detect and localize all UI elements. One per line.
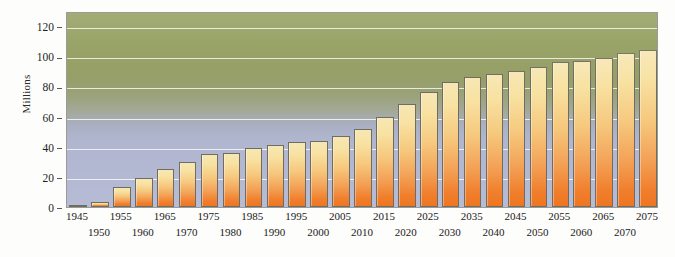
bar (464, 77, 482, 207)
y-tick-mark (57, 148, 62, 149)
bar (310, 141, 328, 207)
bar (442, 82, 460, 207)
x-tick-label: 2015 (373, 210, 395, 222)
x-tick-label: 1945 (66, 210, 88, 222)
y-tick-label: 80 (43, 81, 63, 93)
bar (420, 92, 438, 207)
bar (639, 50, 657, 207)
x-tick-label: 2055 (548, 210, 570, 222)
bar (135, 178, 153, 207)
x-tick-label: 1960 (132, 226, 154, 238)
bar (595, 58, 613, 207)
x-tick-label: 1985 (241, 210, 263, 222)
x-tick-label: 1955 (110, 210, 132, 222)
x-tick-label: 2030 (439, 226, 461, 238)
bar (288, 142, 306, 207)
bar (332, 136, 350, 207)
bar (617, 53, 635, 207)
y-tick-label: 120 (37, 21, 62, 33)
x-tick-label: 2010 (351, 226, 373, 238)
x-tick-label: 2065 (592, 210, 614, 222)
x-tick-label: 2035 (461, 210, 483, 222)
bar (157, 169, 175, 207)
x-tick-label: 1950 (88, 226, 110, 238)
y-tick-label: 20 (43, 172, 63, 184)
x-tick-label: 2040 (483, 226, 505, 238)
bar (113, 187, 131, 207)
x-tick-label: 1965 (154, 210, 176, 222)
x-tick-label: 1975 (198, 210, 220, 222)
bar (223, 153, 241, 207)
x-tick-label: 1995 (285, 210, 307, 222)
bar (376, 117, 394, 207)
x-tick-label: 1970 (176, 226, 198, 238)
x-tick-label: 1980 (219, 226, 241, 238)
y-tick-mark (57, 178, 62, 179)
y-tick-label: 40 (43, 142, 63, 154)
bar (573, 61, 591, 207)
bar (69, 205, 87, 208)
x-tick-label: 2025 (417, 210, 439, 222)
bar (267, 145, 285, 207)
population-bar-chart: Millions 020406080100120 194519501955196… (0, 0, 675, 257)
bar (354, 129, 372, 207)
x-tick-label: 1990 (263, 226, 285, 238)
bar (179, 162, 197, 207)
bar (398, 104, 416, 207)
y-tick-mark (57, 88, 62, 89)
x-tick-label: 2020 (395, 226, 417, 238)
x-tick-label: 2005 (329, 210, 351, 222)
y-axis-tick-labels: 020406080100120 (26, 0, 62, 257)
y-tick-mark (57, 208, 62, 209)
bar (508, 71, 526, 207)
y-tick-mark (57, 118, 62, 119)
bar (201, 154, 219, 207)
y-tick-mark (57, 58, 62, 59)
x-axis-tick-labels: 1945195019551960196519701975198019851990… (66, 209, 658, 255)
bar-series (67, 13, 657, 207)
bar (552, 62, 570, 207)
x-tick-label: 2045 (504, 210, 526, 222)
x-tick-label: 2070 (614, 226, 636, 238)
plot-area (66, 12, 658, 208)
bar (245, 148, 263, 207)
x-tick-label: 2060 (570, 226, 592, 238)
y-tick-label: 0 (48, 202, 62, 214)
x-tick-label: 2050 (526, 226, 548, 238)
bar (91, 202, 109, 207)
bar (530, 67, 548, 207)
y-tick-mark (57, 27, 62, 28)
x-tick-label: 2000 (307, 226, 329, 238)
bar (486, 74, 504, 207)
y-tick-label: 100 (37, 51, 62, 63)
y-tick-label: 60 (43, 112, 63, 124)
x-tick-label: 2075 (636, 210, 658, 222)
